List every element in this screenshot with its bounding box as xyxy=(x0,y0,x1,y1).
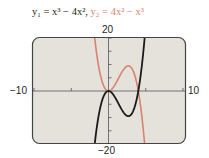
plot-area xyxy=(0,0,209,158)
